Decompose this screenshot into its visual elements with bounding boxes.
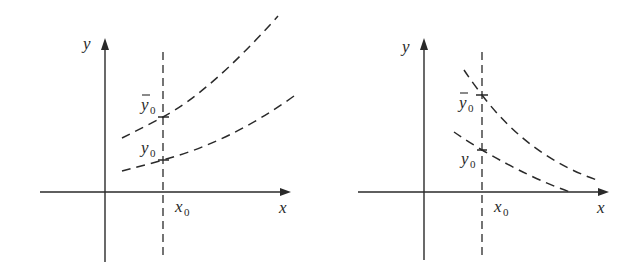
right-ybar0-label: y 0 <box>457 93 474 114</box>
svg-text:y: y <box>457 93 467 112</box>
right-panel: y x y 0 y 0 x 0 <box>358 37 609 260</box>
svg-text:y: y <box>459 149 469 168</box>
right-upper-curve <box>464 70 600 181</box>
svg-text:x: x <box>493 197 502 216</box>
svg-text:0: 0 <box>150 104 156 116</box>
svg-text:0: 0 <box>150 147 156 159</box>
left-x-axis-label: x <box>278 198 287 217</box>
svg-text:x: x <box>174 197 183 216</box>
left-x0-label: x 0 <box>174 197 190 218</box>
svg-text:0: 0 <box>470 158 476 170</box>
left-y0-label: y 0 <box>139 138 156 159</box>
left-ybar0-label: y 0 <box>139 95 156 116</box>
left-x-axis-arrow-icon <box>280 188 291 196</box>
svg-text:y: y <box>139 138 149 157</box>
diagram-canvas: y x y 0 y 0 x 0 y x <box>0 0 628 276</box>
svg-text:y: y <box>139 95 149 114</box>
right-y-axis-label: y <box>400 37 410 56</box>
left-y-axis-label: y <box>81 34 91 53</box>
right-y0-label: y 0 <box>459 149 476 170</box>
right-x-axis-label: x <box>596 198 605 217</box>
left-y-axis-arrow-icon <box>101 38 109 50</box>
svg-text:0: 0 <box>503 206 509 218</box>
left-panel: y x y 0 y 0 x 0 <box>40 16 294 262</box>
right-x0-label: x 0 <box>493 197 509 218</box>
right-x-axis-arrow-icon <box>598 188 609 196</box>
left-upper-curve <box>122 16 278 138</box>
right-y-axis-arrow-icon <box>420 38 428 50</box>
svg-text:0: 0 <box>468 102 474 114</box>
svg-text:0: 0 <box>184 206 190 218</box>
